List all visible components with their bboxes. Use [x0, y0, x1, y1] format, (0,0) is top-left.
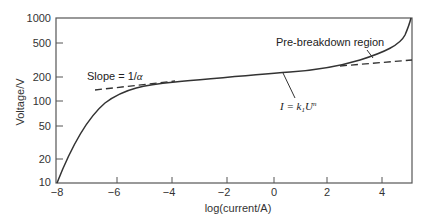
- x-axis-label: log(current/A): [205, 202, 272, 214]
- formula-arrow: [283, 73, 295, 98]
- x-tick-2: 2: [324, 186, 330, 198]
- y-tick-500: 500: [33, 37, 51, 49]
- y-tick-1000: 1000: [27, 12, 51, 24]
- chart: 1000 500 200 100 50 20 10 −8 −6 −4 −2 0 …: [0, 0, 429, 220]
- x-axis: [117, 177, 382, 183]
- x-tick-neg8: −8: [51, 186, 64, 198]
- y-tick-labels: 1000 500 200 100 50 20 10: [27, 12, 51, 188]
- y-tick-200: 200: [33, 71, 51, 83]
- x-tick-neg4: −4: [163, 186, 176, 198]
- x-tick-neg2: −2: [218, 186, 231, 198]
- x-tick-4: 4: [379, 186, 385, 198]
- x-tick-0: 0: [271, 186, 277, 198]
- y-axis: [56, 43, 63, 159]
- formula-annotation: I = k1Un: [279, 100, 317, 114]
- slope-annotation: Slope = 1/α: [87, 70, 143, 82]
- x-tick-neg6: −6: [108, 186, 121, 198]
- prebreakdown-annotation: Pre-breakdown region: [276, 36, 384, 48]
- y-axis-label: Voltage/V: [14, 78, 26, 126]
- y-tick-20: 20: [39, 153, 51, 165]
- y-tick-100: 100: [33, 95, 51, 107]
- y-tick-50: 50: [39, 120, 51, 132]
- x-tick-labels: −8 −6 −4 −2 0 2 4: [51, 186, 385, 198]
- y-tick-10: 10: [39, 176, 51, 188]
